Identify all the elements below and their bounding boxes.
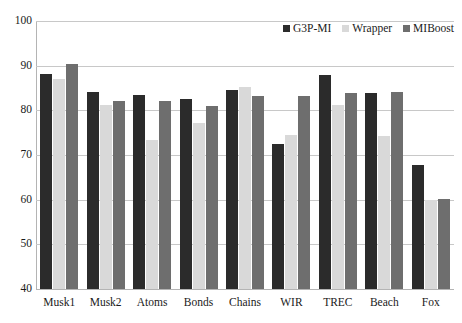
x-tick-label-fox: Fox <box>408 294 454 316</box>
bar-fox-miboost <box>438 199 450 289</box>
bar-atoms-g3p-mi <box>133 95 145 289</box>
x-axis-tick-labels: Musk1Musk2AtomsBondsChainsWIRTRECBeachFo… <box>36 294 454 316</box>
legend-item-wrapper[interactable]: Wrapper <box>342 22 392 34</box>
y-axis-tick-labels: 100908070605040 <box>0 21 32 289</box>
bar-chains-miboost <box>252 96 264 289</box>
bar-bonds-g3p-mi <box>180 99 192 289</box>
bar-groups <box>36 21 454 289</box>
bar-trec-wrapper <box>332 105 344 289</box>
bar-musk1-wrapper <box>53 79 65 289</box>
bar-chains-wrapper <box>239 87 251 289</box>
bar-atoms-miboost <box>159 101 171 289</box>
gridline-40 <box>36 289 454 290</box>
legend-item-g3p-mi[interactable]: G3P-MI <box>283 22 331 34</box>
bar-group-trec <box>315 21 361 289</box>
bar-trec-g3p-mi <box>319 75 331 289</box>
legend-label: Wrapper <box>352 22 392 34</box>
bar-musk2-wrapper <box>100 105 112 289</box>
y-tick-label-80: 80 <box>2 104 32 116</box>
bar-atoms-wrapper <box>146 140 158 289</box>
bar-wir-g3p-mi <box>272 144 284 289</box>
y-tick-label-100: 100 <box>2 15 32 27</box>
bar-beach-wrapper <box>378 136 390 289</box>
bar-musk1-miboost <box>66 64 78 289</box>
bar-group-atoms <box>129 21 175 289</box>
bar-wir-wrapper <box>285 135 297 289</box>
legend-label: G3P-MI <box>293 22 331 34</box>
plot-area <box>36 21 454 289</box>
legend-swatch-icon <box>283 25 290 32</box>
y-tick-label-60: 60 <box>2 194 32 206</box>
bar-wir-miboost <box>298 96 310 289</box>
y-tick-label-70: 70 <box>2 149 32 161</box>
x-tick-label-beach: Beach <box>361 294 407 316</box>
bar-group-beach <box>361 21 407 289</box>
bar-group-wir <box>268 21 314 289</box>
bar-bonds-miboost <box>206 106 218 289</box>
bar-group-fox <box>408 21 454 289</box>
bar-beach-g3p-mi <box>365 93 377 289</box>
legend-swatch-icon <box>342 25 349 32</box>
y-tick-label-40: 40 <box>2 283 32 295</box>
y-tick-label-50: 50 <box>2 238 32 250</box>
x-tick-label-chains: Chains <box>222 294 268 316</box>
legend-swatch-icon <box>403 25 410 32</box>
x-tick-label-wir: WIR <box>268 294 314 316</box>
bar-group-musk1 <box>36 21 82 289</box>
bar-chains-g3p-mi <box>226 90 238 289</box>
bar-fox-g3p-mi <box>412 165 424 289</box>
bar-group-chains <box>222 21 268 289</box>
bar-chart: 100908070605040 Musk1Musk2AtomsBondsChai… <box>0 0 462 323</box>
y-tick-label-90: 90 <box>2 60 32 72</box>
bar-beach-miboost <box>391 92 403 289</box>
legend-item-miboost[interactable]: MIBoost <box>403 22 454 34</box>
x-tick-label-atoms: Atoms <box>129 294 175 316</box>
bar-musk2-miboost <box>113 101 125 289</box>
bar-musk2-g3p-mi <box>87 92 99 289</box>
legend-label: MIBoost <box>413 22 454 34</box>
bar-bonds-wrapper <box>193 123 205 289</box>
chart-legend: G3P-MIWrapperMIBoost <box>283 22 454 34</box>
x-tick-label-bonds: Bonds <box>175 294 221 316</box>
x-tick-label-musk1: Musk1 <box>36 294 82 316</box>
bar-musk1-g3p-mi <box>40 74 52 289</box>
bar-fox-wrapper <box>425 200 437 289</box>
x-tick-label-trec: TREC <box>315 294 361 316</box>
bar-group-musk2 <box>82 21 128 289</box>
bar-trec-miboost <box>345 93 357 289</box>
bar-group-bonds <box>175 21 221 289</box>
x-tick-label-musk2: Musk2 <box>82 294 128 316</box>
